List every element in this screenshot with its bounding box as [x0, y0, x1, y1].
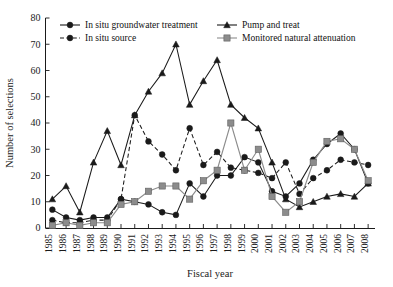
data-point-marker-circle [146, 201, 152, 207]
data-point-marker-square [49, 222, 55, 228]
data-point-marker-triangle [90, 159, 97, 165]
data-point-marker-square [283, 209, 289, 215]
data-point-marker-circle [269, 175, 275, 181]
series-line [52, 134, 368, 221]
data-point-marker-square [324, 138, 330, 144]
data-point-marker-circle [352, 159, 358, 165]
legend-label: In situ source [85, 33, 136, 43]
data-point-marker-square [145, 188, 151, 194]
x-tick-label-1993: 1993 [154, 234, 164, 253]
x-tick-label-2008: 2008 [360, 234, 370, 253]
x-tick-label-1991: 1991 [127, 234, 137, 253]
data-point-marker-triangle [118, 162, 125, 168]
data-point-marker-square [296, 199, 302, 205]
x-tick-label-1995: 1995 [182, 234, 192, 253]
y-tick-label-20: 20 [31, 170, 41, 181]
y-axis-title: Number of selections [4, 78, 15, 168]
data-point-marker-square [187, 196, 193, 202]
data-point-marker-square [200, 178, 206, 184]
data-point-marker-circle [67, 35, 73, 41]
data-point-marker-square [77, 222, 83, 228]
data-point-marker-circle [67, 22, 73, 28]
x-tick-label-1997: 1997 [209, 234, 219, 253]
x-tick-label-1990: 1990 [113, 234, 123, 253]
data-point-marker-circle [255, 170, 261, 176]
data-point-marker-triangle [104, 128, 111, 134]
y-tick-label-40: 40 [31, 117, 41, 128]
y-tick-label-60: 60 [31, 65, 41, 76]
series-monitored-natural-attenuation [49, 120, 371, 229]
y-tick-label-50: 50 [31, 91, 41, 102]
data-point-marker-circle [297, 180, 303, 186]
x-tick-label-1996: 1996 [195, 234, 205, 253]
x-tick-label-2001: 2001 [264, 234, 274, 253]
chart-legend: In situ groundwater treatmentPump and tr… [60, 20, 356, 43]
data-point-marker-square [241, 167, 247, 173]
data-point-marker-square [228, 120, 234, 126]
x-tick-label-1998: 1998 [223, 234, 233, 253]
line-chart: 01020304050607080 1985198619871988198919… [0, 0, 393, 287]
data-point-marker-circle [173, 167, 179, 173]
data-point-marker-triangle [77, 209, 84, 215]
legend-label: Monitored natural attenuation [242, 33, 356, 43]
y-tick-label-0: 0 [36, 222, 41, 233]
data-point-marker-circle [242, 154, 248, 160]
data-point-marker-circle [228, 173, 234, 179]
x-tick-label-2000: 2000 [250, 234, 260, 253]
data-point-marker-circle [310, 175, 316, 181]
x-tick-label-1988: 1988 [86, 234, 96, 253]
data-point-marker-triangle [200, 78, 207, 84]
data-point-marker-circle [173, 212, 179, 218]
x-tick-label-2005: 2005 [319, 234, 329, 253]
data-point-marker-circle [324, 167, 330, 173]
x-tick-label-2003: 2003 [291, 234, 301, 253]
x-tick-label-2006: 2006 [333, 234, 343, 253]
data-point-marker-circle [187, 180, 193, 186]
legend-label: In situ groundwater treatment [85, 20, 198, 30]
data-point-marker-circle [283, 159, 289, 165]
data-point-marker-square [63, 220, 69, 226]
data-point-marker-square [90, 220, 96, 226]
x-axis-title: Fiscal year [187, 268, 233, 279]
series-line [52, 115, 368, 223]
y-tick-label-30: 30 [31, 144, 41, 155]
legend-item-in-situ-source[interactable]: In situ source [60, 33, 136, 43]
data-point-marker-triangle [310, 198, 317, 204]
y-axis-ticks [46, 18, 50, 228]
x-axis-tick-labels: 1985198619871988198919901991199219931994… [44, 234, 370, 253]
data-point-marker-square [255, 146, 261, 152]
data-point-marker-circle [338, 157, 344, 163]
data-point-marker-circle [255, 159, 261, 165]
data-point-marker-square [365, 178, 371, 184]
data-point-marker-square [224, 35, 230, 41]
data-point-marker-triangle [269, 159, 276, 165]
x-tick-label-1985: 1985 [44, 234, 54, 253]
legend-item-monitored-natural-attenuation[interactable]: Monitored natural attenuation [217, 33, 356, 43]
x-tick-label-2002: 2002 [278, 234, 288, 253]
data-series-group [49, 41, 371, 229]
x-tick-label-1989: 1989 [99, 234, 109, 253]
x-tick-label-1986: 1986 [58, 234, 68, 253]
data-point-marker-square [310, 159, 316, 165]
data-point-marker-triangle [159, 70, 166, 76]
y-tick-label-70: 70 [31, 39, 41, 50]
y-tick-label-80: 80 [31, 12, 41, 23]
data-point-marker-circle [187, 125, 193, 131]
legend-label: Pump and treat [242, 20, 300, 30]
data-point-marker-circle [159, 209, 165, 215]
data-point-marker-circle [200, 162, 206, 168]
data-point-marker-circle [146, 138, 152, 144]
series-pump-and-treat [49, 41, 371, 215]
data-point-marker-triangle [228, 101, 235, 107]
data-point-marker-square [351, 146, 357, 152]
data-point-marker-circle [214, 149, 220, 155]
data-point-marker-triangle [173, 41, 180, 47]
x-axis-ticks [52, 224, 368, 228]
data-point-marker-square [159, 183, 165, 189]
y-tick-label-10: 10 [31, 196, 41, 207]
x-tick-label-1994: 1994 [168, 234, 178, 253]
x-tick-label-1987: 1987 [72, 234, 82, 253]
legend-item-in-situ-groundwater-treatment[interactable]: In situ groundwater treatment [60, 20, 198, 30]
legend-item-pump-and-treat[interactable]: Pump and treat [217, 20, 300, 30]
data-point-marker-triangle [63, 183, 70, 189]
